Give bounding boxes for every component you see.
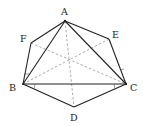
label-B: B (9, 82, 16, 93)
edge-DC (74, 84, 126, 107)
angle-mark-B (34, 84, 35, 89)
edge-AE (65, 21, 109, 39)
vertex-B-dot (22, 83, 24, 85)
vertex-C-dot (125, 83, 127, 85)
label-F: F (20, 33, 27, 44)
label-E: E (112, 29, 119, 40)
label-D: D (70, 112, 78, 123)
dashed-edge-BE (23, 39, 109, 84)
dashed-edge-FC (31, 43, 126, 84)
edge-BD (23, 84, 74, 107)
dashed-edge-AD (65, 21, 74, 107)
vertex-A-dot (64, 20, 66, 22)
label-C: C (130, 82, 137, 93)
edge-AF (31, 21, 65, 43)
label-A: A (60, 6, 68, 17)
edge-EC (109, 39, 126, 84)
geometry-diagram: A E F B C D (0, 0, 143, 126)
angle-mark-C (114, 84, 115, 89)
